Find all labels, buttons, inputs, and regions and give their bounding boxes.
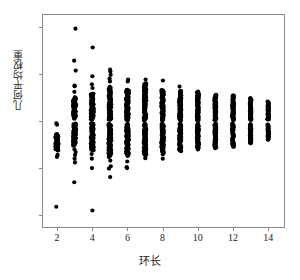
x-tick-label: 2	[45, 233, 69, 243]
x-tick-label: 10	[186, 233, 210, 243]
caption-strip	[0, 273, 300, 280]
y-tick-mark	[39, 168, 43, 169]
figure-scatter-plot: 210-1-2 2468101214 几何平均权重 环长	[0, 0, 300, 280]
x-tick-mark	[92, 227, 93, 231]
y-tick-mark	[39, 74, 43, 75]
x-axis-title: 环长	[0, 252, 300, 268]
plot-area	[43, 15, 284, 227]
y-axis-title: 几何平均权重	[14, 50, 28, 110]
scatter-points-layer	[43, 15, 284, 227]
x-tick-mark	[57, 227, 58, 231]
x-tick-mark	[198, 227, 199, 231]
y-tick-mark	[39, 27, 43, 28]
x-tick-mark	[163, 227, 164, 231]
x-tick-label: 12	[221, 233, 245, 243]
x-tick-mark	[233, 227, 234, 231]
x-tick-mark	[127, 227, 128, 231]
plot-frame: 210-1-2 2468101214	[42, 14, 285, 228]
y-tick-mark	[39, 121, 43, 122]
x-tick-label: 8	[151, 233, 175, 243]
x-tick-label: 14	[256, 233, 280, 243]
y-tick-mark	[39, 215, 43, 216]
x-tick-label: 4	[80, 233, 104, 243]
x-tick-mark	[268, 227, 269, 231]
x-tick-label: 6	[115, 233, 139, 243]
